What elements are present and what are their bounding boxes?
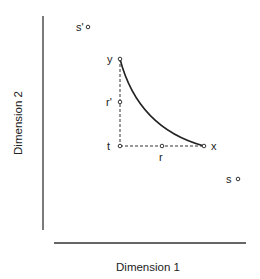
- y-axis-label: Dimension 2: [12, 91, 24, 155]
- point-x: [202, 144, 206, 148]
- curve-y-x: [120, 59, 204, 146]
- point-s: [236, 177, 240, 181]
- similarity-diagram: Dimension 2 Dimension 1 y r' t r x s' s: [0, 0, 260, 279]
- label-t: t: [107, 140, 110, 152]
- point-y: [118, 57, 122, 61]
- label-r: r: [159, 151, 163, 163]
- x-axis-label: Dimension 1: [116, 261, 180, 273]
- label-s-prime: s': [76, 21, 84, 33]
- label-x: x: [211, 140, 217, 152]
- point-t: [118, 144, 122, 148]
- label-s: s: [226, 173, 232, 185]
- point-r-prime: [118, 100, 122, 104]
- point-s-prime: [86, 25, 90, 29]
- point-r: [160, 144, 164, 148]
- label-y: y: [107, 53, 113, 65]
- label-r-prime: r': [106, 96, 112, 108]
